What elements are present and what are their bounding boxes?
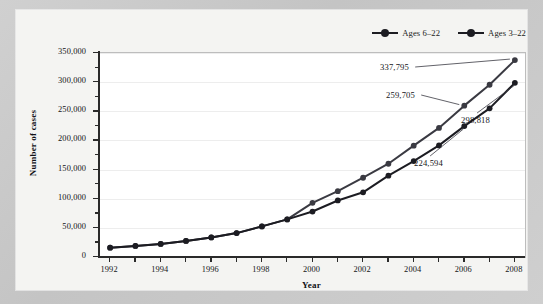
y-axis-tick-label: 200,000 [32,134,86,143]
y-axis-tick [93,52,98,53]
data-label-224594: 224,594 [414,158,443,168]
y-axis-tick-label: 100,000 [32,193,86,202]
y-axis-tick [93,81,98,82]
y-axis-tick-label: 0 [32,251,86,260]
data-point [436,125,442,131]
y-axis-minor-tick [95,154,98,155]
legend-label: Ages 6–22 [402,28,440,38]
data-point [385,161,391,167]
y-axis-minor-tick [95,212,98,213]
x-axis-tick [463,257,464,262]
x-axis-tick-label: 2002 [342,265,382,274]
x-axis-tick-label: 1996 [190,265,230,274]
data-label-298818: 298,818 [461,115,490,125]
data-point [158,241,164,247]
x-axis-tick [337,257,338,262]
data-label-337795: 337,795 [380,62,409,72]
data-point [487,82,493,88]
x-axis-tick [210,257,211,262]
legend-entry-2[interactable]: Ages 3–22 [458,28,526,38]
data-point [512,57,518,63]
x-axis-tick-label: 2000 [292,265,332,274]
data-point [360,189,366,195]
y-axis-tick-label: 300,000 [32,76,86,85]
data-point [183,238,189,244]
y-axis-tick [93,110,98,111]
y-axis-title: Number of cases [28,93,38,193]
figure-card: Ages 6–22Ages 3–22 050,000100,000150,000… [16,10,527,290]
data-point [259,224,265,230]
data-point [360,175,366,181]
data-point [461,103,467,109]
y-axis-minor-tick [95,96,98,97]
y-axis-tick [93,169,98,170]
x-axis-title: Year [99,280,524,290]
y-axis-tick [93,139,98,140]
x-axis-tick [413,257,414,262]
data-point [208,235,214,241]
x-axis-tick [286,257,287,262]
x-axis-tick [236,257,237,262]
y-axis-line [98,51,100,257]
data-point [234,230,240,236]
y-axis-tick-label: 50,000 [32,222,86,231]
figure-root: Ages 6–22Ages 3–22 050,000100,000150,000… [0,0,543,304]
x-axis-tick [160,257,161,262]
y-axis-minor-tick [95,67,98,68]
data-point [310,200,316,206]
data-point [133,243,139,249]
x-axis-tick [261,257,262,262]
x-axis-tick [438,257,439,262]
y-axis-tick-label: 150,000 [32,164,86,173]
data-point [107,245,113,251]
y-axis-minor-tick [95,241,98,242]
plot-area [99,52,526,258]
data-point [411,143,417,149]
data-point [310,209,316,215]
data-point [385,173,391,179]
x-axis-tick-label: 2008 [494,265,534,274]
chart-legend: Ages 6–22Ages 3–22 [346,24,526,42]
x-axis-tick [109,257,110,262]
series-line-2 [110,60,515,248]
x-axis-tick-label: 1994 [140,265,180,274]
x-axis-tick [387,257,388,262]
x-axis-tick-label: 2006 [443,265,483,274]
y-axis-tick [93,227,98,228]
x-axis-tick [312,257,313,262]
x-axis-tick [514,257,515,262]
y-axis-minor-tick [95,125,98,126]
y-axis-tick [93,256,98,257]
x-axis-tick [362,257,363,262]
data-point [512,80,518,86]
data-point [284,217,290,223]
data-point [335,198,341,204]
y-axis-minor-tick [95,183,98,184]
data-point [487,105,493,111]
series-line-1 [110,83,515,248]
data-point [335,188,341,194]
legend-marker-icon [458,29,484,38]
x-axis-tick-label: 1992 [89,265,129,274]
x-axis-tick [134,257,135,262]
y-axis-tick-label: 350,000 [32,47,86,56]
series-lines [100,53,525,257]
data-point [436,142,442,148]
legend-marker-icon [372,29,398,38]
y-axis-tick-label: 250,000 [32,105,86,114]
legend-entry-1[interactable]: Ages 6–22 [372,28,440,38]
y-axis-tick [93,198,98,199]
x-axis-tick [489,257,490,262]
x-axis-tick [185,257,186,262]
x-axis-tick-label: 2004 [393,265,433,274]
legend-label: Ages 3–22 [488,28,526,38]
x-axis-tick-label: 1998 [241,265,281,274]
data-label-259705: 259,705 [386,90,415,100]
